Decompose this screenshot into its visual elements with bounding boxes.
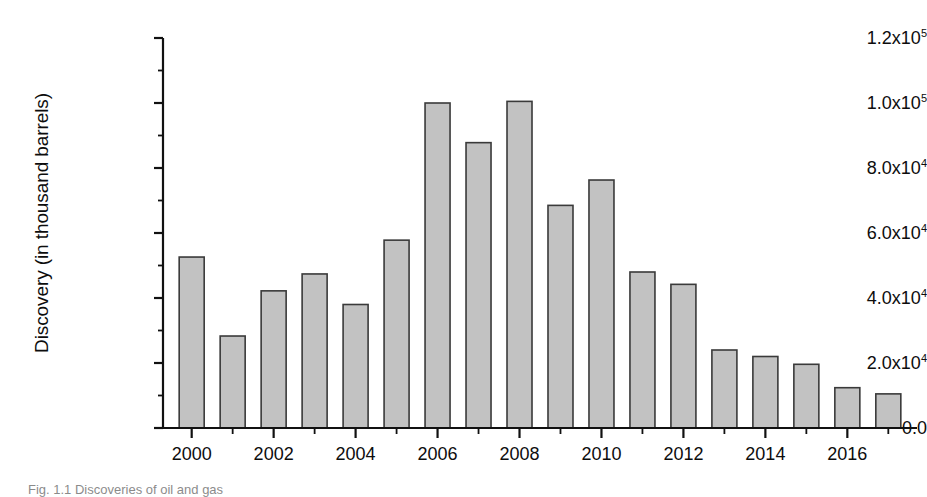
bar-2017 bbox=[876, 394, 901, 428]
bar-2004 bbox=[343, 305, 368, 429]
bar-2014 bbox=[753, 357, 778, 429]
figure-caption: Fig. 1.1 Discoveries of oil and gas bbox=[28, 482, 223, 497]
bar-2013 bbox=[712, 350, 737, 428]
bar-2012 bbox=[671, 284, 696, 428]
bar-2009 bbox=[548, 205, 573, 428]
bar-2011 bbox=[630, 272, 655, 428]
bar-2006 bbox=[425, 103, 450, 428]
bar-2001 bbox=[220, 336, 245, 428]
bar-2005 bbox=[384, 240, 409, 428]
bar-2002 bbox=[261, 291, 286, 428]
bar-2003 bbox=[302, 274, 327, 428]
bar-2007 bbox=[466, 143, 491, 428]
bar-2008 bbox=[507, 101, 532, 428]
bars-group bbox=[179, 101, 901, 428]
bar-2016 bbox=[835, 388, 860, 428]
bar-2010 bbox=[589, 180, 614, 428]
bar-2015 bbox=[794, 364, 819, 428]
bar-2000 bbox=[179, 257, 204, 428]
